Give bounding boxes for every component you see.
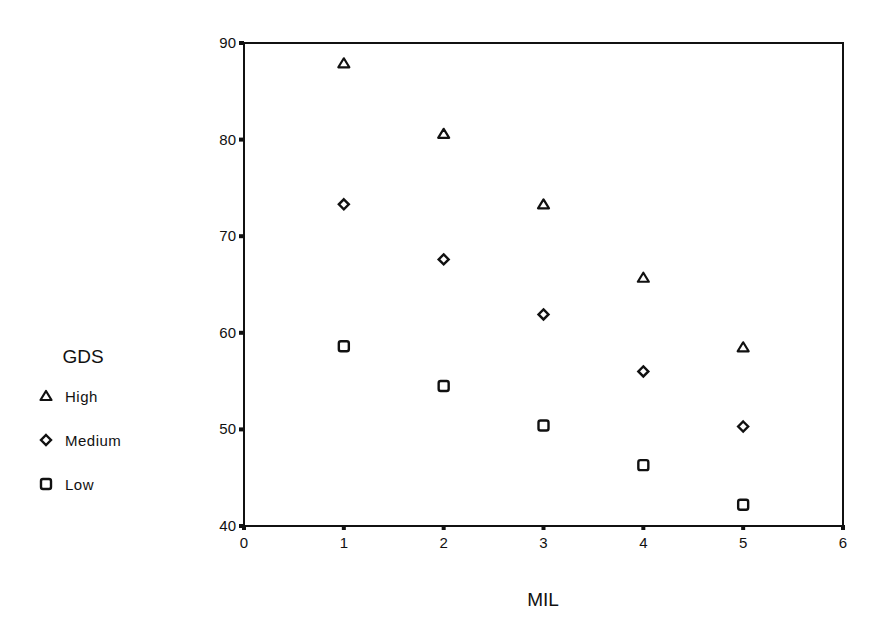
x-axis-ticks: 0123456 <box>240 525 847 551</box>
y-tick-mark <box>239 331 244 335</box>
legend-label: Medium <box>65 432 121 449</box>
x-tick-label: 0 <box>240 534 248 551</box>
y-tick-label: 50 <box>219 420 236 437</box>
triangle-marker-icon <box>738 342 749 351</box>
x-tick-mark <box>442 525 446 530</box>
x-tick-label: 4 <box>639 534 647 551</box>
series-low <box>339 341 748 509</box>
y-tick-mark <box>239 41 244 45</box>
x-tick-mark <box>342 525 346 530</box>
x-tick-label: 1 <box>340 534 348 551</box>
diamond-marker-icon <box>638 366 648 376</box>
triangle-marker-icon <box>638 273 649 282</box>
x-axis-title: MIL <box>527 589 559 610</box>
x-tick-mark <box>841 525 845 530</box>
y-tick-mark <box>239 427 244 431</box>
square-marker-icon <box>539 421 549 431</box>
diamond-marker-icon <box>339 199 349 209</box>
series-high <box>338 58 748 351</box>
square-marker-icon <box>738 500 748 510</box>
x-tick-label: 3 <box>539 534 547 551</box>
diamond-legend-icon <box>41 435 51 445</box>
legend-item-low: Low <box>41 476 94 493</box>
x-tick-label: 5 <box>739 534 747 551</box>
square-marker-icon <box>339 341 349 351</box>
diamond-marker-icon <box>439 254 449 264</box>
triangle-marker-icon <box>338 58 349 67</box>
legend-item-high: High <box>41 388 98 405</box>
diamond-marker-icon <box>738 422 748 432</box>
square-marker-icon <box>439 381 449 391</box>
triangle-marker-icon <box>538 199 549 208</box>
data-points <box>338 58 748 509</box>
plot-area <box>244 43 843 526</box>
x-tick-mark <box>741 525 745 530</box>
y-tick-mark <box>239 234 244 238</box>
y-tick-label: 40 <box>219 517 236 534</box>
scatter-chart: 0123456 405060708090 MIL GDS HighMediumL… <box>0 0 873 623</box>
legend-item-medium: Medium <box>41 432 121 449</box>
legend-title: GDS <box>62 346 103 367</box>
y-tick-label: 80 <box>219 131 236 148</box>
square-legend-icon <box>41 479 51 489</box>
plot-frame <box>244 43 843 526</box>
triangle-marker-icon <box>438 129 449 138</box>
diamond-marker-icon <box>539 309 549 319</box>
y-axis-ticks: 405060708090 <box>219 34 244 534</box>
y-tick-mark <box>239 524 244 528</box>
x-tick-label: 2 <box>439 534 447 551</box>
series-medium <box>339 199 748 431</box>
legend-label: High <box>65 388 98 405</box>
y-tick-label: 60 <box>219 324 236 341</box>
legend: GDS HighMediumLow <box>41 346 122 493</box>
y-tick-label: 70 <box>219 227 236 244</box>
y-tick-label: 90 <box>219 34 236 51</box>
x-tick-label: 6 <box>839 534 847 551</box>
x-tick-mark <box>542 525 546 530</box>
legend-label: Low <box>65 476 94 493</box>
triangle-legend-icon <box>41 391 52 400</box>
x-tick-mark <box>641 525 645 530</box>
y-tick-mark <box>239 138 244 142</box>
square-marker-icon <box>638 460 648 470</box>
